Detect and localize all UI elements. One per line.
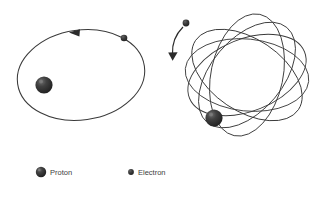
electron-dot-icon — [128, 169, 134, 175]
atomic-orbit-figure: Proton Electron — [0, 0, 330, 197]
legend-label-electron: Electron — [138, 168, 166, 177]
proton-sphere-icon — [36, 167, 46, 177]
legend-label-proton: Proton — [50, 168, 72, 177]
proton-highlight-precessing — [209, 113, 213, 117]
proton-sphere-simple — [35, 76, 52, 93]
proton-icon-highlight — [38, 169, 41, 172]
proton-highlight-simple — [39, 80, 43, 84]
electron-dot-precessing — [183, 20, 190, 27]
proton-sphere-precessing — [205, 109, 222, 126]
electron-dot-simple — [121, 35, 128, 42]
legend-item-proton: Proton — [36, 167, 72, 177]
